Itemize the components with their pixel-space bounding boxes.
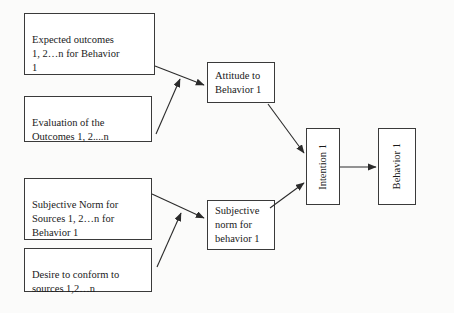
node-label: Expected outcomes 1, 2…n for Behavior 1 (32, 34, 119, 73)
node-subjective-norm-sources: Subjective Norm for Sources 1, 2…n for B… (24, 178, 152, 240)
edge-evaluation-to-attitude (156, 79, 180, 134)
diagram-canvas: Expected outcomes 1, 2…n for Behavior 1 … (0, 0, 454, 313)
node-desire-to-conform: Desire to conform to sources 1,2…n (24, 248, 152, 292)
node-label: Behavior 1 (392, 143, 403, 189)
edge-attitude-to-intention (268, 104, 304, 153)
node-label: Evaluation of the Outcomes 1, 2....n (32, 117, 109, 142)
edge-expected-to-attitude (155, 66, 204, 85)
node-label: Desire to conform to sources 1,2…n (32, 269, 119, 294)
edge-desire-to-norm-behavior (157, 213, 181, 267)
node-label: Subjective Norm for Sources 1, 2…n for B… (32, 199, 118, 238)
node-expected-outcomes: Expected outcomes 1, 2…n for Behavior 1 (24, 13, 155, 75)
node-attitude-to-behavior: Attitude to Behavior 1 (207, 62, 275, 103)
node-label: Subjective norm for behavior 1 (215, 204, 267, 246)
node-evaluation-of-outcomes: Evaluation of the Outcomes 1, 2....n (24, 96, 152, 142)
node-label: Intention 1 (318, 144, 329, 190)
edge-norm-behavior-to-intention (270, 183, 304, 208)
node-intention: Intention 1 (306, 128, 340, 205)
edge-norm-sources-to-norm-behavior (152, 194, 204, 218)
node-subjective-norm-behavior: Subjective norm for behavior 1 (207, 200, 275, 250)
node-behavior: Behavior 1 (378, 128, 416, 205)
node-label: Attitude to Behavior 1 (215, 69, 267, 97)
